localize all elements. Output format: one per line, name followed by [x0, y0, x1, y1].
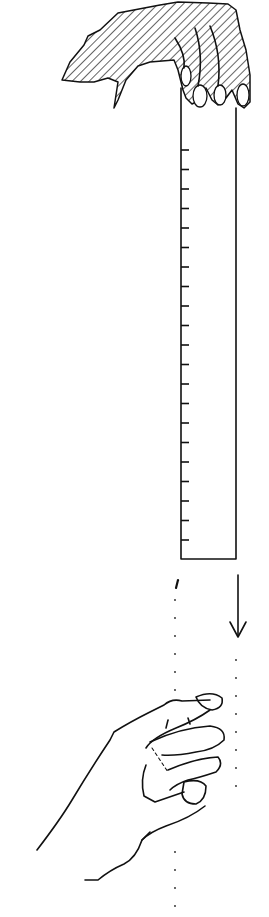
top-hand-icon [62, 2, 250, 108]
arrow-down-icon [230, 575, 246, 637]
ruler [181, 88, 236, 559]
dotted-guide-left [174, 599, 176, 907]
bottom-hand-icon [37, 694, 224, 880]
dotted-guide-right [235, 659, 237, 787]
ruler-drop-illustration [0, 0, 269, 917]
ruler-ticks [181, 150, 189, 540]
